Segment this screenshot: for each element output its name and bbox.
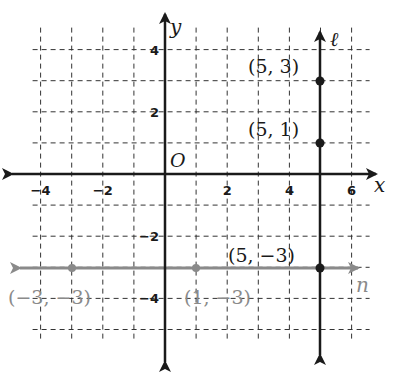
y-axis-label: y <box>169 15 182 39</box>
x-tick-label: 6 <box>347 183 356 198</box>
y-tick-label: 4 <box>150 43 159 58</box>
point-1-neg3 <box>192 264 200 272</box>
point-5-3 <box>316 77 325 86</box>
line-l-label: ℓ <box>330 27 339 51</box>
origin-label: O <box>170 149 186 171</box>
coordinate-plane-diagram: −4−2246 42−2−4 x y O ℓ n (5, 3) (5, 1) (… <box>0 0 396 380</box>
x-tick-label: 4 <box>285 183 294 198</box>
y-tick-label: 2 <box>150 105 159 120</box>
y-tick-label: −4 <box>139 291 159 306</box>
point-5-neg3 <box>316 264 325 273</box>
label-neg3-neg3: (−3, −3) <box>8 286 91 308</box>
y-tick-label: −2 <box>139 229 159 244</box>
x-axis-label: x <box>374 173 385 197</box>
x-tick-label: −2 <box>93 183 113 198</box>
x-tick-label: 2 <box>223 183 232 198</box>
label-1-neg3: (1, −3) <box>184 286 251 308</box>
line-n-label: n <box>356 273 369 297</box>
x-tick-labels: −4−2246 <box>31 183 357 198</box>
point-neg3-neg3 <box>68 264 76 272</box>
label-5-1: (5, 1) <box>248 118 299 140</box>
point-5-1 <box>316 139 325 148</box>
x-tick-label: −4 <box>31 183 51 198</box>
label-5-3: (5, 3) <box>248 55 299 77</box>
label-5-neg3: (5, −3) <box>228 244 295 266</box>
